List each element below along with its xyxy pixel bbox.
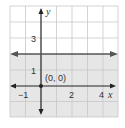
x-tick-2: 2 [69, 90, 74, 100]
x-axis-label: x [107, 89, 113, 100]
x-tick-neg1: −1 [18, 90, 28, 100]
origin-point [39, 84, 43, 88]
y-axis-label: y [45, 6, 51, 17]
y-tick-1: 1 [31, 66, 36, 76]
coordinate-graph: y x 3 1 −1 2 4 (0, 0) [0, 0, 125, 128]
origin-label: (0, 0) [45, 73, 66, 83]
x-tick-4: 4 [99, 90, 104, 100]
y-axis-arrow-up-icon [39, 8, 44, 14]
y-tick-3: 3 [31, 34, 36, 44]
